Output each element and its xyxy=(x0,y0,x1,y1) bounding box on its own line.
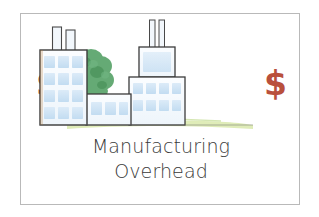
caption: Manufacturing Overhead xyxy=(21,134,301,184)
factory-illustration: $ $ xyxy=(21,14,301,134)
right-building-upper-windows xyxy=(143,52,171,72)
right-building-smokestacks xyxy=(150,20,165,50)
manufacturing-overhead-card: $ $ xyxy=(20,13,300,205)
middle-building-windows xyxy=(91,102,128,115)
caption-line-2: Overhead xyxy=(21,159,301,184)
factory-scene-svg xyxy=(21,14,301,134)
left-building xyxy=(40,27,87,125)
middle-building xyxy=(86,94,131,125)
screenshot-canvas: $ $ xyxy=(0,0,319,217)
left-building-smokestacks xyxy=(53,27,76,51)
caption-line-1: Manufacturing xyxy=(21,134,301,159)
right-building xyxy=(129,20,185,125)
